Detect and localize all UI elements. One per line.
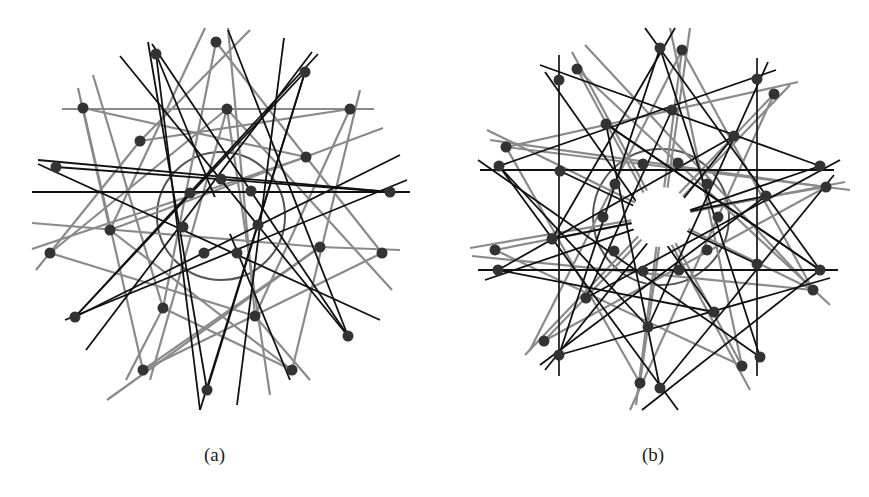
inner-node bbox=[673, 158, 684, 169]
figure: (a) (b) bbox=[0, 0, 869, 497]
black-node bbox=[70, 312, 81, 323]
gray-node bbox=[315, 242, 326, 253]
gray-node bbox=[539, 336, 550, 347]
inner-node bbox=[713, 212, 724, 223]
gray-node bbox=[287, 365, 298, 376]
black-node bbox=[643, 322, 654, 333]
inner-node bbox=[610, 179, 621, 190]
gray-node bbox=[78, 103, 89, 114]
black-node bbox=[547, 234, 558, 245]
black-node bbox=[554, 75, 565, 86]
caption-b: (b) bbox=[642, 444, 664, 466]
inner-node bbox=[609, 246, 620, 257]
black-node bbox=[343, 331, 354, 342]
gray-node bbox=[250, 311, 261, 322]
inner-node bbox=[232, 248, 243, 259]
black-node bbox=[385, 187, 396, 198]
black-node bbox=[51, 162, 62, 173]
figure-canvas bbox=[0, 0, 869, 497]
inner-node bbox=[216, 174, 227, 185]
black-node bbox=[581, 293, 592, 304]
gray-node bbox=[105, 225, 116, 236]
gray-node bbox=[45, 248, 56, 259]
gray-node bbox=[821, 182, 832, 193]
gray-edge bbox=[320, 247, 400, 250]
gray-node bbox=[769, 89, 780, 100]
inner-node bbox=[702, 179, 713, 190]
black-node bbox=[752, 74, 763, 85]
black-node bbox=[815, 265, 826, 276]
inner-node bbox=[674, 265, 685, 276]
gray-node bbox=[345, 104, 356, 115]
black-node bbox=[555, 166, 566, 177]
black-node bbox=[493, 265, 504, 276]
black-node bbox=[655, 383, 666, 394]
black-node bbox=[729, 131, 740, 142]
black-node bbox=[601, 119, 612, 130]
gray-node bbox=[222, 104, 233, 115]
gray-node bbox=[635, 378, 646, 389]
inner-node bbox=[638, 159, 649, 170]
gray-node bbox=[377, 248, 388, 259]
inner-node bbox=[253, 220, 264, 231]
gray-node bbox=[490, 245, 501, 256]
black-node bbox=[815, 161, 826, 172]
inner-node bbox=[199, 248, 210, 259]
gray-node bbox=[158, 303, 169, 314]
gray-node bbox=[808, 285, 819, 296]
black-node bbox=[300, 67, 311, 78]
panel-b-diagram bbox=[470, 28, 850, 410]
black-node bbox=[202, 385, 213, 396]
inner-node bbox=[178, 222, 189, 233]
inner-node bbox=[638, 266, 649, 277]
gray-edge bbox=[292, 90, 360, 370]
gray-node bbox=[138, 365, 149, 376]
black-node bbox=[554, 350, 565, 361]
black-edge bbox=[642, 270, 820, 410]
center-hole bbox=[631, 187, 691, 247]
gray-node bbox=[572, 64, 583, 75]
black-node bbox=[655, 43, 666, 54]
gray-node bbox=[211, 37, 222, 48]
gray-node bbox=[737, 361, 748, 372]
inner-node bbox=[185, 188, 196, 199]
black-node bbox=[151, 49, 162, 60]
inner-node bbox=[702, 245, 713, 256]
black-node bbox=[667, 105, 678, 116]
black-node bbox=[755, 352, 766, 363]
gray-node bbox=[677, 45, 688, 56]
black-node bbox=[494, 161, 505, 172]
black-node bbox=[709, 307, 720, 318]
caption-a: (a) bbox=[204, 444, 225, 466]
center-hole bbox=[201, 196, 241, 236]
gray-node bbox=[135, 136, 146, 147]
inner-node bbox=[598, 212, 609, 223]
black-node bbox=[761, 191, 772, 202]
gray-node bbox=[301, 152, 312, 163]
panel-a-diagram bbox=[32, 28, 410, 410]
black-node bbox=[752, 259, 763, 270]
gray-node bbox=[501, 142, 512, 153]
inner-node bbox=[246, 186, 257, 197]
